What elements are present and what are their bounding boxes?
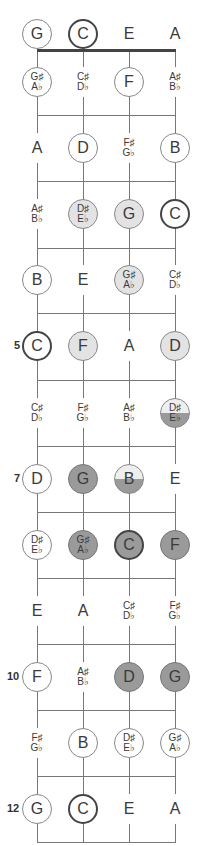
fret-line-4 [37,313,176,314]
note-fret12-string-A: A [160,794,190,824]
note-label: F [32,669,42,685]
note-flat-label: E♭ [77,214,89,224]
fret-line-6 [37,446,176,447]
note-fret6-string-C: F♯G♭ [68,398,98,428]
note-flat-label: B♭ [31,214,43,224]
note-fret9-string-A: F♯G♭ [160,596,190,626]
note-fret5-string-A: D [160,331,190,361]
fret-line-8 [37,578,176,579]
note-fret2-string-G: A [22,133,52,163]
note-fret11-string-C: B [68,728,98,758]
note-fret0-string-C: C [68,19,98,49]
note-fret1-string-A: A♯B♭ [160,67,190,97]
note-label: C [169,206,181,222]
note-fret4-string-E: G♯A♭ [114,265,144,295]
note-label: A [170,26,181,42]
note-fret8-string-E: C [114,530,144,560]
fret-line-12 [37,842,176,843]
note-flat-label: G♭ [31,743,44,753]
note-label: G [169,669,181,685]
note-fret0-string-E: E [114,19,144,49]
note-fret7-string-C: G [68,464,98,494]
note-fret9-string-G: E [22,596,52,626]
note-fret9-string-E: C♯D♭ [114,596,144,626]
note-flat-label: E♭ [169,413,181,423]
note-label: D [169,338,181,354]
fret-line-11 [37,776,176,777]
note-fret2-string-C: D [68,133,98,163]
note-label: B [124,471,135,487]
note-fret11-string-A: G♯A♭ [160,728,190,758]
note-label: C [123,537,135,553]
note-fret1-string-C: C♯D♭ [68,67,98,97]
note-label: F [170,537,180,553]
note-label: B [32,272,43,288]
fret-number-5: 5 [14,339,20,351]
note-label: D [77,140,89,156]
fretboard-diagram: GCEAG♯A♭C♯D♭FA♯B♭ADF♯G♭BA♯B♭D♯E♭GCBEG♯A♭… [0,0,202,846]
note-fret8-string-A: F [160,530,190,560]
fret-line-3 [37,248,176,249]
note-fret3-string-G: A♯B♭ [22,199,52,229]
note-label: G [77,471,89,487]
note-flat-label: D♭ [169,280,181,290]
note-flat-label: D♭ [123,611,135,621]
note-fret7-string-E: B [114,464,144,494]
note-label: G [123,206,135,222]
note-fret3-string-A: C [160,199,190,229]
note-fret2-string-E: F♯G♭ [114,133,144,163]
note-label: B [170,140,181,156]
note-fret5-string-C: F [68,331,98,361]
note-flat-label: B♭ [169,82,181,92]
fret-line-9 [37,644,176,645]
note-fret11-string-G: F♯G♭ [22,728,52,758]
note-fret3-string-C: D♯E♭ [68,199,98,229]
fret-line-10 [37,710,176,711]
fret-line-7 [37,512,176,513]
note-label: E [124,801,135,817]
note-fret10-string-G: F [22,662,52,692]
note-label: E [170,471,181,487]
note-flat-label: A♭ [169,743,181,753]
note-fret10-string-A: G [160,662,190,692]
note-label: C [77,801,89,817]
note-flat-label: G♭ [77,413,90,423]
note-fret4-string-G: B [22,265,52,295]
note-label: A [32,140,43,156]
note-fret5-string-E: A [114,331,144,361]
note-fret4-string-C: E [68,265,98,295]
note-label: E [78,272,89,288]
note-flat-label: B♭ [123,413,135,423]
note-fret12-string-E: E [114,794,144,824]
note-label: D [123,669,135,685]
fret-line-5 [37,380,176,381]
note-label: G [31,801,43,817]
fret-number-10: 10 [7,670,19,682]
note-fret6-string-A: D♯E♭ [160,398,190,428]
note-flat-label: G♭ [123,148,136,158]
fret-line-2 [37,181,176,182]
note-fret3-string-E: G [114,199,144,229]
note-fret1-string-E: F [114,67,144,97]
nut [37,49,176,52]
note-fret11-string-E: D♯E♭ [114,728,144,758]
note-fret4-string-A: C♯D♭ [160,265,190,295]
note-fret5-string-G: C [22,331,52,361]
note-flat-label: D♭ [77,82,89,92]
note-label: D [31,471,43,487]
note-fret10-string-C: A♯B♭ [68,662,98,692]
note-fret6-string-G: C♯D♭ [22,398,52,428]
note-fret12-string-C: C [68,794,98,824]
note-flat-label: E♭ [31,545,43,555]
fret-number-7: 7 [14,472,20,484]
note-flat-label: A♭ [31,82,43,92]
note-fret8-string-C: G♯A♭ [68,530,98,560]
note-fret12-string-G: G [22,794,52,824]
note-flat-label: B♭ [77,677,89,687]
fret-line-1 [37,115,176,116]
note-label: E [32,603,43,619]
note-label: A [170,801,181,817]
note-label: F [78,338,88,354]
note-fret0-string-A: A [160,19,190,49]
note-fret6-string-E: A♯B♭ [114,398,144,428]
